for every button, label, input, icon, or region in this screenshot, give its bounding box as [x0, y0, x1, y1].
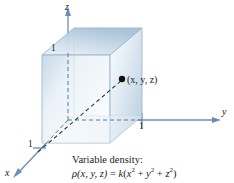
z-axis-tick-label: 1 [51, 43, 56, 53]
variable-density-cube-figure: z y x 1 1 1 (x, y, z) Variable density: … [0, 0, 234, 183]
x-axis-tick-label: 1 [28, 139, 33, 149]
point-marker [119, 76, 125, 82]
y-axis-label: y [222, 106, 226, 117]
caption-title: Variable density: [72, 154, 143, 166]
caption-density-formula: ρ(x, y, z) = k(x2 + y2 + z2) [72, 166, 177, 180]
close-paren: ) [173, 168, 177, 179]
density-arguments: (x, y, z) [77, 168, 107, 179]
point-coordinate-label: (x, y, z) [127, 74, 157, 85]
x-axis-label: x [5, 167, 9, 178]
y-axis-tick-label: 1 [139, 121, 144, 131]
plus-sign-1: + [135, 168, 146, 179]
z-axis-label: z [65, 1, 69, 12]
plus-sign-2: + [154, 168, 165, 179]
equals-sign: = [107, 168, 118, 179]
